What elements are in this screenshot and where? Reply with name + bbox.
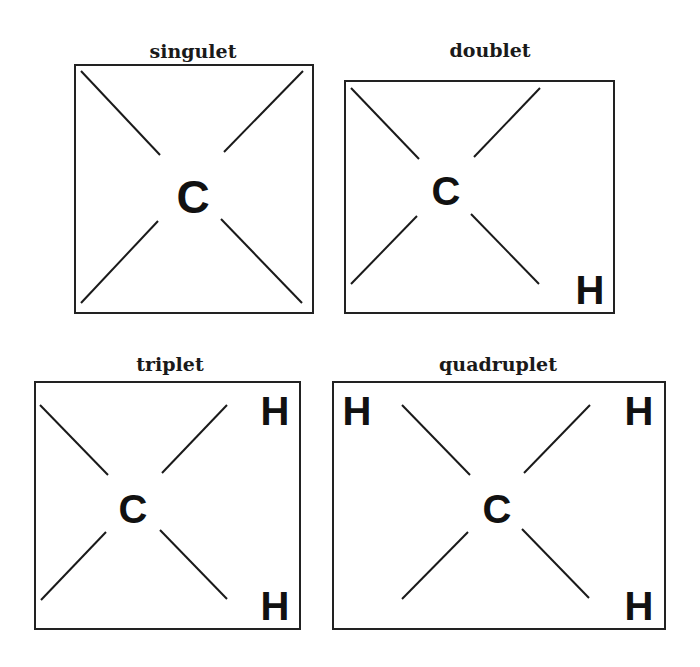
hydrogen-atom-bottom-right: H xyxy=(625,584,654,628)
carbon-atom: C xyxy=(176,171,209,223)
carbon-atom: C xyxy=(483,487,512,531)
panel-singulet: singulet C xyxy=(75,40,313,313)
bond-line xyxy=(162,405,227,473)
panel-frame xyxy=(345,81,614,313)
panel-title: singulet xyxy=(150,40,237,62)
bond-line xyxy=(41,532,106,600)
bond-line xyxy=(402,405,470,475)
bond-line xyxy=(524,405,590,473)
bond-line xyxy=(221,219,302,303)
carbon-atom: C xyxy=(119,487,148,531)
bond-line xyxy=(351,216,417,284)
bond-line xyxy=(160,530,227,599)
panel-title: quadruplet xyxy=(439,353,557,375)
bond-line xyxy=(402,532,468,599)
panel-doublet: doublet C H xyxy=(345,39,614,313)
hydrogen-atom-bottom-right: H xyxy=(576,268,605,312)
bond-line xyxy=(81,221,158,303)
bond-line xyxy=(474,88,540,157)
hydrogen-atom-bottom-right: H xyxy=(261,584,290,628)
multiplicity-diagram: singulet C doublet C H triplet C H H qua… xyxy=(0,0,700,667)
bond-line xyxy=(81,71,160,155)
bond-line xyxy=(224,71,303,152)
bond-line xyxy=(40,405,108,475)
bond-line xyxy=(522,529,589,598)
bond-line xyxy=(351,88,419,159)
panel-triplet: triplet C H H xyxy=(35,353,300,629)
panel-title: triplet xyxy=(136,353,204,375)
hydrogen-atom-top-left: H xyxy=(343,389,372,433)
hydrogen-atom-top-right: H xyxy=(261,389,290,433)
hydrogen-atom-top-right: H xyxy=(625,389,654,433)
panel-quadruplet: quadruplet C H H H xyxy=(333,353,665,629)
carbon-atom: C xyxy=(432,169,461,213)
bond-line xyxy=(471,214,539,284)
panel-title: doublet xyxy=(449,39,530,61)
